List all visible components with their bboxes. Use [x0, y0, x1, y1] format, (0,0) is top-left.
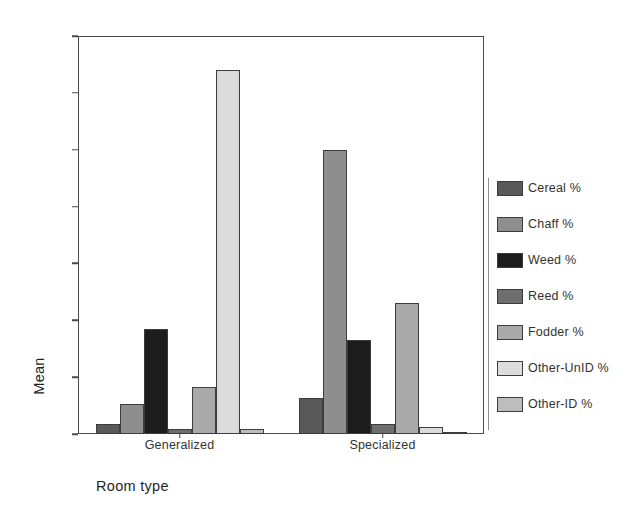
- legend-swatch: [497, 325, 523, 340]
- y-axis: 0.0.1.2.3.4.5.6.7: [0, 0, 78, 507]
- bar: [299, 398, 323, 434]
- legend-swatch: [497, 397, 523, 412]
- legend-label: Other-UnID %: [528, 361, 609, 375]
- legend-label: Weed %: [528, 253, 576, 267]
- legend-divider: [488, 178, 489, 430]
- bar: [240, 429, 264, 434]
- bar: [96, 424, 120, 434]
- x-axis-title: Room type: [96, 478, 169, 494]
- bar-group: [96, 36, 264, 434]
- legend-label: Cereal %: [528, 181, 581, 195]
- legend-item[interactable]: Other-ID %: [497, 394, 593, 414]
- bar: [323, 150, 347, 434]
- bar: [395, 303, 419, 434]
- legend-swatch: [497, 253, 523, 268]
- bar-chart: 0.0.1.2.3.4.5.6.7 Mean GeneralizedSpecia…: [0, 0, 639, 507]
- legend-swatch: [497, 361, 523, 376]
- y-axis-title: Mean: [31, 331, 47, 421]
- bar: [419, 427, 443, 434]
- bar: [347, 340, 371, 434]
- legend-swatch: [497, 289, 523, 304]
- legend-item[interactable]: Chaff %: [497, 214, 574, 234]
- legend-item[interactable]: Cereal %: [497, 178, 581, 198]
- legend-item[interactable]: Fodder %: [497, 322, 584, 342]
- bar: [443, 432, 467, 435]
- bar-group: [299, 36, 467, 434]
- bar: [216, 70, 240, 434]
- legend-label: Fodder %: [528, 325, 584, 339]
- legend-swatch: [497, 217, 523, 232]
- x-tick-label: Generalized: [145, 438, 215, 452]
- x-axis: GeneralizedSpecialized: [78, 438, 484, 462]
- legend-item[interactable]: Other-UnID %: [497, 358, 609, 378]
- legend-item[interactable]: Weed %: [497, 250, 576, 270]
- legend-label: Chaff %: [528, 217, 574, 231]
- bars-layer: [78, 36, 484, 434]
- legend-label: Reed %: [528, 289, 574, 303]
- bar: [144, 329, 168, 434]
- bar: [120, 404, 144, 434]
- legend-label: Other-ID %: [528, 397, 593, 411]
- x-tick-label: Specialized: [349, 438, 415, 452]
- bar: [192, 387, 216, 434]
- legend-swatch: [497, 181, 523, 196]
- legend-item[interactable]: Reed %: [497, 286, 574, 306]
